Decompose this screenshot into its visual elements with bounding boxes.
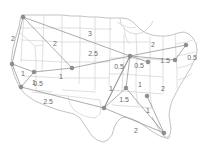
state-line-ok	[62, 90, 96, 92]
state-line-h1	[21, 40, 110, 42]
edge-weight-label: 0.5	[33, 80, 43, 87]
edge-weight-label: 1	[138, 81, 142, 88]
network-node[interactable]	[32, 70, 36, 74]
network-edge	[147, 96, 164, 133]
edge-weight-label: 0.5	[187, 54, 197, 61]
network-node[interactable]	[184, 43, 188, 47]
network-node[interactable]	[19, 85, 23, 89]
edge-weight-label: 1	[109, 85, 113, 92]
network-node[interactable]	[124, 86, 128, 90]
network-edge	[130, 45, 186, 56]
edge-weight-label: 2	[161, 85, 165, 92]
state-line-mw4	[109, 90, 162, 94]
network-node[interactable]	[21, 15, 25, 19]
edge-weight-label: 2	[53, 40, 57, 47]
network-edge	[23, 17, 130, 56]
state-line-e2	[136, 34, 138, 106]
edge-weight-label: 2	[11, 35, 15, 42]
state-line-ne4	[178, 73, 192, 80]
network-edge	[12, 64, 21, 87]
network-edge	[175, 45, 186, 60]
state-line-ne1	[176, 40, 193, 44]
lake-superior	[117, 22, 136, 28]
edge-weight-label: 1	[59, 73, 63, 80]
state-line-w3	[61, 15, 62, 78]
node-layer	[10, 15, 188, 135]
edge-weight-label: 1	[21, 70, 25, 77]
network-node[interactable]	[173, 58, 177, 62]
edge-layer	[12, 17, 186, 133]
state-line-w2	[42, 15, 44, 72]
map-canvas	[0, 0, 202, 151]
edge-weight-label: 1.5	[160, 57, 170, 64]
network-node[interactable]	[162, 131, 166, 135]
edge-weight-label: 3	[88, 30, 92, 37]
state-line-h2	[19, 28, 112, 29]
state-line-nv-ut	[35, 45, 43, 46]
edge-weight-label: 2	[151, 41, 155, 48]
network-node[interactable]	[145, 94, 149, 98]
edge-weight-label: 1.5	[119, 96, 129, 103]
edge-weight-label: 0.5	[114, 63, 124, 70]
edge-weight-label: 0.5	[134, 62, 144, 69]
edge-weight-label: 2	[134, 127, 138, 134]
network-node[interactable]	[102, 106, 106, 110]
map-network-figure: 223110.512.52.50.511.5210.521.50.512	[0, 0, 202, 151]
state-line-w6	[109, 18, 110, 86]
edge-weight-label: 1	[146, 107, 150, 114]
network-edge	[126, 56, 130, 88]
network-edge	[34, 68, 72, 72]
network-node[interactable]	[146, 60, 150, 64]
network-node[interactable]	[70, 66, 74, 70]
edge-weight-label: 2.5	[43, 98, 53, 105]
state-line-h4	[24, 76, 109, 78]
florida-peninsula	[152, 117, 170, 139]
network-node[interactable]	[128, 54, 132, 58]
state-line-w4	[79, 16, 80, 84]
edge-weight-label: 2.5	[88, 50, 98, 57]
network-node[interactable]	[10, 62, 14, 66]
lake-michigan	[124, 28, 130, 44]
